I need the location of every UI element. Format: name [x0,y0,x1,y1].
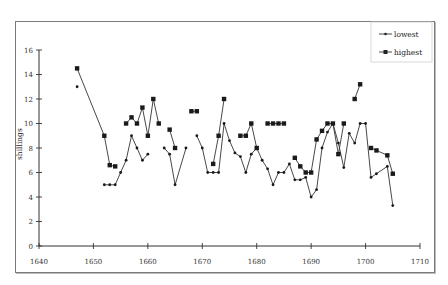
data-point [75,66,79,70]
series-lowest [76,85,394,207]
y-tick-label: 14 [24,71,33,79]
data-point [167,127,171,131]
data-point [125,159,128,162]
data-point [266,167,269,170]
data-point [250,153,253,156]
legend-label-highest: highest [394,48,422,57]
data-point [271,121,275,125]
data-point [298,164,302,168]
data-point [189,109,193,113]
data-point [299,178,302,181]
y-tick-label: 10 [24,120,33,128]
data-point [212,171,215,174]
data-point [234,152,237,155]
data-point [309,170,313,174]
data-point [135,121,139,125]
data-point [293,178,296,181]
data-point [146,153,149,156]
data-point [265,121,269,125]
data-point [374,148,378,152]
data-point [283,171,286,174]
series-highest [75,66,395,176]
data-point [314,137,318,141]
data-point [288,163,291,166]
data-point [217,171,220,174]
data-point [321,147,324,150]
x-tick-label: 1640 [30,258,48,266]
data-point [304,176,307,179]
line-chart: 0246810121416 16401650166016701680169017… [0,0,448,285]
data-point [114,183,117,186]
data-point [391,204,394,207]
square-marker-icon [384,50,388,54]
data-point [244,134,248,138]
data-point [282,121,286,125]
data-point [119,171,122,174]
data-point [113,164,117,168]
data-point [108,163,112,167]
data-point [375,172,378,175]
data-point [386,165,389,168]
data-point [337,142,340,145]
y-axis-title: shillings [15,128,24,160]
data-point [255,146,259,150]
legend: lowest highest [371,22,432,62]
data-point [261,159,264,162]
data-point [195,134,198,137]
data-point [157,121,161,125]
data-point [222,97,226,101]
data-point [277,171,280,174]
data-point [358,82,362,86]
data-point [124,121,128,125]
data-point [168,153,171,156]
data-point [353,142,356,145]
data-point [136,147,139,150]
data-point [141,159,144,162]
x-tick-label: 1690 [302,258,320,266]
x-tick-label: 1700 [357,258,375,266]
data-point [238,134,242,138]
data-point [76,85,79,88]
data-point [369,146,373,150]
data-point [223,122,226,125]
data-point [206,171,209,174]
data-point [310,196,313,199]
data-point [348,132,351,135]
data-point [272,183,275,186]
data-point [185,147,188,150]
data-point [304,170,308,174]
data-point [151,97,155,101]
x-tick-label: 1650 [85,258,103,266]
y-tick-label: 4 [29,194,34,202]
y-tick-label: 6 [29,169,34,177]
data-point [342,121,346,125]
data-point [315,188,318,191]
x-axis: 16401650166016701680169017001710 [30,243,429,266]
diamond-marker-icon [384,33,387,36]
data-point [359,122,362,125]
data-point [342,166,345,169]
data-point [276,121,280,125]
data-point [174,183,177,186]
data-point [140,105,144,109]
data-point [249,121,253,125]
data-point [102,134,106,138]
data-point [352,97,356,101]
x-tick-label: 1710 [411,258,429,266]
data-point [216,134,220,138]
data-point [325,121,329,125]
y-tick-label: 0 [29,243,33,251]
data-point [108,183,111,186]
y-tick-label: 12 [24,96,33,104]
data-point [391,172,395,176]
y-axis: 0246810121416 [24,47,42,251]
x-tick-label: 1680 [248,258,266,266]
x-tick-label: 1670 [193,258,211,266]
data-point [163,147,166,150]
x-tick-label: 1660 [139,258,157,266]
data-point [146,134,150,138]
data-point [326,131,329,134]
data-point [385,153,389,157]
data-point [364,122,367,125]
series-layer [75,66,395,207]
